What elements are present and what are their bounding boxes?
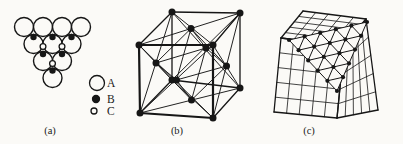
plane-atom [287,38,291,42]
face-center-atom [188,25,195,32]
packing-sphere-a [53,18,72,37]
legend-symbol-b [93,96,100,103]
plane-atom [328,41,332,45]
figure-close-packed-structures: A B C (a) (b) (c) [0,0,403,144]
plane-atom [353,48,357,52]
packing-sphere-a [34,18,53,37]
corner-atom [137,110,144,117]
left-face-gridline [275,97,338,103]
panel-b-label: (b) [171,125,184,137]
cube-edge-front [140,113,213,118]
plane-atom [365,20,369,24]
corner-atom [136,42,143,49]
site-b-dot [30,34,36,40]
plane-atom [325,79,329,83]
left-face-gridline [287,40,294,114]
plane-atom [312,45,316,49]
panel-a-close-packing-diagram [15,18,105,115]
plane-atom [318,31,322,35]
right-face-gridline [340,74,373,90]
corner-atom [169,9,176,16]
cube-edge-back [172,80,240,88]
right-face-gridline [337,110,378,118]
cube-edge-back [172,12,240,13]
site-b-dot [49,34,55,40]
figure-canvas: A B C (a) (b) (c) [0,0,403,144]
site-b-dot [68,34,74,40]
panel-b-fcc-unit-cell-diagram [136,9,244,122]
face-center-atom [188,97,195,104]
plane-atom [349,24,353,28]
plane-atom [322,55,326,59]
legend-label-a: A [107,77,116,89]
plane-atom [331,65,335,69]
site-b-dot [49,67,55,73]
plane-atom [347,61,351,65]
left-face-gridline [274,38,281,112]
face-center-atom [153,60,160,67]
corner-atom [237,85,244,92]
plane-atom [303,34,307,38]
panel-a-label: (a) [44,125,56,137]
plane-atom [306,58,310,62]
corner-atom [237,10,244,17]
site-c-circle [59,44,65,50]
site-b-dot [40,51,46,57]
plane-atom [343,37,347,41]
legend-symbol-a [90,76,105,91]
cube-edge-front [139,45,140,113]
plane-atom [341,75,345,79]
plane-atom [359,34,363,38]
left-face-gridline [274,112,337,118]
legend-label-b: B [107,93,115,105]
plane-atom [334,27,338,31]
site-c-circle [50,61,56,67]
face-center-atom [203,45,210,52]
right-face-gridline [338,92,375,104]
legend-symbol-c [91,108,97,114]
panel-c-octahedral-plane-diagram [274,11,378,118]
legend-label-c: C [107,105,115,117]
plane-atom [337,51,341,55]
right-face-gridline [366,19,378,110]
plane-atom [297,48,301,52]
site-c-circle [40,44,46,50]
plane-atom [335,89,339,93]
face-center-atom [173,77,180,84]
face-center-atom [223,63,230,70]
top-face-gridline [281,11,303,38]
octahedron-edge [192,48,207,100]
panel-c-label: (c) [303,125,315,137]
corner-atom [210,115,217,122]
packing-sphere-a [15,18,34,37]
corner-atom [210,42,217,49]
packing-sphere-a [72,18,91,37]
site-b-dot [59,51,65,57]
plane-atom [316,69,320,73]
